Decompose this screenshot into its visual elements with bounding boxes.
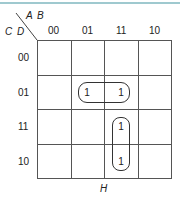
col-header-00: 00: [48, 26, 59, 36]
cell-11-10: [138, 109, 172, 145]
cell-01-00: [37, 75, 72, 110]
col-header-10: 10: [149, 26, 160, 36]
cell-10-01: [71, 144, 105, 179]
cell-10-00: [37, 144, 72, 179]
column-variables-label: A B: [26, 11, 45, 21]
map-caption: H: [100, 184, 108, 194]
cell-10-10: [138, 144, 172, 179]
karnaugh-map-grid: 1 1 1 1: [37, 40, 171, 178]
row-header-11: 11: [18, 122, 28, 132]
col-header-11: 11: [116, 26, 126, 36]
cell-00-11: [104, 40, 139, 76]
row-header-10: 10: [18, 157, 29, 167]
col-header-01: 01: [82, 26, 93, 36]
cell-00-10: [138, 40, 172, 76]
group-loop-vertical: [112, 117, 130, 171]
cell-11-00: [37, 109, 72, 145]
row-header-00: 00: [18, 53, 29, 63]
group-loop-horizontal: [78, 82, 130, 103]
cell-11-01: [71, 109, 105, 145]
cell-00-01: [71, 40, 105, 76]
row-header-01: 01: [18, 88, 29, 98]
cell-01-10: [138, 75, 172, 110]
cell-00-00: [37, 40, 72, 76]
row-variables-label: C D: [5, 27, 25, 37]
